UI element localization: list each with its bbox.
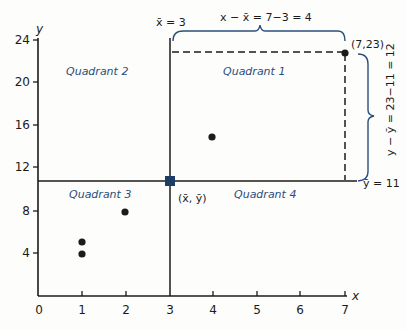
x-bar-label: x̄ = 3 <box>156 16 186 29</box>
quadrant-3-label: Quadrant 3 <box>69 188 131 201</box>
mean-point-label: (x̄, ȳ) <box>178 192 207 205</box>
deviation-braces <box>173 25 374 181</box>
x-deviation-label: x − x̄ = 7−3 = 4 <box>220 11 312 24</box>
x-tick-5: 5 <box>253 303 261 317</box>
x-tick-1: 1 <box>78 303 86 317</box>
point-7-23 <box>341 49 348 56</box>
point-2-8 <box>121 208 128 215</box>
y-tick-20: 20 <box>15 75 30 89</box>
x-axis-label: x <box>351 289 360 303</box>
quadrant-4-label: Quadrant 4 <box>234 188 296 201</box>
x-deviation-brace <box>173 25 345 41</box>
x-tick-3: 3 <box>166 303 174 317</box>
y-tick-16: 16 <box>15 118 30 132</box>
quadrant-1-label: Quadrant 1 <box>223 65 285 78</box>
mean-point-marker <box>165 176 175 186</box>
point-7-23-label: (7,23) <box>351 38 384 51</box>
y-tick-8: 8 <box>22 204 30 218</box>
x-tick-2: 2 <box>122 303 130 317</box>
y-deviation-brace <box>358 54 374 181</box>
y-tick-24: 24 <box>15 33 30 47</box>
y-ticks: 24 20 16 12 8 4 y <box>15 22 44 260</box>
x-tick-0: 0 <box>35 303 43 317</box>
y-axis-label: y <box>35 22 44 36</box>
point-1-5 <box>78 238 85 245</box>
scatter-diagram: 24 20 16 12 8 4 y 0 1 2 3 4 5 6 7 x x̄ =… <box>0 0 406 330</box>
y-tick-12: 12 <box>15 160 30 174</box>
data-points <box>78 49 348 257</box>
y-bar-label: ȳ = 11 <box>363 177 400 190</box>
point-1-4 <box>78 250 85 257</box>
quadrant-2-label: Quadrant 2 <box>66 65 128 78</box>
y-tick-4: 4 <box>22 246 30 260</box>
x-tick-6: 6 <box>296 303 304 317</box>
x-tick-7: 7 <box>341 303 349 317</box>
point-4-15 <box>208 133 215 140</box>
y-deviation-label: y − ȳ = 23−11 = 12 <box>384 43 397 156</box>
x-ticks: 0 1 2 3 4 5 6 7 x <box>35 289 360 317</box>
x-tick-4: 4 <box>209 303 217 317</box>
